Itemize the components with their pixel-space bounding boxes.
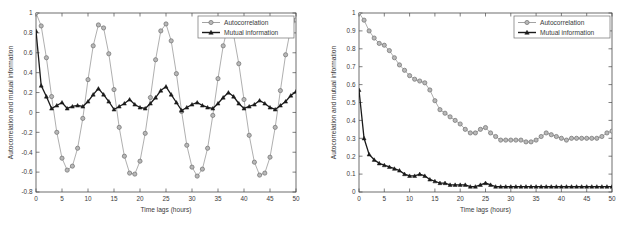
y-tick-label: -0.6 xyxy=(21,168,32,175)
data-point-marker xyxy=(453,118,457,122)
data-point-marker xyxy=(216,77,220,81)
data-point-marker xyxy=(392,56,396,60)
chart-panel-left: 05101520253035404550-0.8-0.6-0.4-0.200.2… xyxy=(0,0,312,226)
x-tick-label: 50 xyxy=(608,195,616,202)
chart-svg-left: 05101520253035404550-0.8-0.6-0.4-0.200.2… xyxy=(0,0,312,226)
legend-label: Mutual information xyxy=(224,29,279,36)
data-point-marker xyxy=(382,43,386,47)
data-point-marker xyxy=(397,63,401,67)
data-point-marker xyxy=(294,18,298,22)
figure-container: 05101520253035404550-0.8-0.6-0.4-0.200.2… xyxy=(0,0,625,226)
x-tick-label: 10 xyxy=(406,195,414,202)
data-point-marker xyxy=(580,136,584,140)
data-point-marker xyxy=(468,131,472,135)
data-point-marker xyxy=(494,134,498,138)
data-point-marker xyxy=(559,136,563,140)
data-point-marker xyxy=(91,44,95,48)
data-point-marker xyxy=(258,173,262,177)
data-point-marker xyxy=(107,52,111,56)
x-axis-title: Time lags (hours) xyxy=(460,206,511,214)
data-point-marker xyxy=(96,23,100,27)
y-tick-label: 0.3 xyxy=(347,135,356,142)
data-point-marker xyxy=(169,39,173,43)
y-tick-label: 0.7 xyxy=(347,63,356,70)
y-tick-label: 0.4 xyxy=(347,117,356,124)
x-tick-label: 0 xyxy=(34,195,38,202)
data-point-marker xyxy=(273,125,277,129)
y-tick-label: 0.9 xyxy=(347,27,356,34)
x-tick-label: 5 xyxy=(60,195,64,202)
x-tick-label: 20 xyxy=(136,195,144,202)
x-tick-label: 30 xyxy=(188,195,196,202)
data-point-marker xyxy=(252,160,256,164)
y-tick-label: 0.8 xyxy=(24,29,33,36)
data-point-marker xyxy=(174,72,178,76)
x-tick-label: 25 xyxy=(162,195,170,202)
data-point-marker xyxy=(539,134,543,138)
data-point-marker xyxy=(237,62,241,66)
x-tick-label: 40 xyxy=(240,195,248,202)
data-point-marker xyxy=(524,140,528,144)
data-point-marker xyxy=(133,172,137,176)
data-point-marker xyxy=(148,95,152,99)
data-point-marker xyxy=(544,131,548,135)
data-point-marker xyxy=(357,11,361,15)
data-point-marker xyxy=(509,138,513,142)
data-point-marker xyxy=(458,122,462,126)
data-point-marker xyxy=(263,171,267,175)
y-tick-label: 0 xyxy=(29,109,33,116)
y-tick-label: 0 xyxy=(352,188,356,195)
data-point-marker xyxy=(529,140,533,144)
data-point-marker xyxy=(268,155,272,159)
data-point-marker xyxy=(190,165,194,169)
x-tick-label: 10 xyxy=(84,195,92,202)
data-point-marker xyxy=(55,130,59,134)
data-point-marker xyxy=(504,138,508,142)
chart-svg-right: 0510152025303540455000.10.20.30.40.50.60… xyxy=(312,0,625,226)
data-point-marker xyxy=(463,127,467,131)
data-point-marker xyxy=(362,18,366,22)
legend-circle-marker-icon xyxy=(209,20,213,24)
data-point-marker xyxy=(367,29,371,33)
data-point-marker xyxy=(154,58,158,62)
y-tick-label: 0.5 xyxy=(347,99,356,106)
data-point-marker xyxy=(499,138,503,142)
data-point-marker xyxy=(402,68,406,72)
y-tick-label: -0.8 xyxy=(21,188,32,195)
data-point-marker xyxy=(600,134,604,138)
x-tick-label: 30 xyxy=(507,195,515,202)
data-point-marker xyxy=(408,74,412,78)
data-point-marker xyxy=(221,44,225,48)
x-tick-label: 20 xyxy=(457,195,465,202)
x-tick-label: 35 xyxy=(214,195,222,202)
y-tick-label: 0.6 xyxy=(24,49,33,56)
data-point-marker xyxy=(278,88,282,92)
x-tick-label: 0 xyxy=(357,195,361,202)
data-point-marker xyxy=(102,26,106,30)
legend-label: Autocorrelation xyxy=(540,19,585,26)
x-axis-title: Time lags (hours) xyxy=(140,206,191,214)
data-point-marker xyxy=(242,97,246,101)
data-point-marker xyxy=(44,56,48,60)
data-point-marker xyxy=(34,11,38,15)
data-point-marker xyxy=(377,41,381,45)
data-point-marker xyxy=(138,159,142,163)
data-point-marker xyxy=(554,134,558,138)
data-point-marker xyxy=(590,136,594,140)
y-tick-label: 0.1 xyxy=(347,170,356,177)
data-point-marker xyxy=(438,108,442,112)
data-point-marker xyxy=(211,113,215,117)
data-point-marker xyxy=(81,116,85,120)
data-point-marker xyxy=(514,138,518,142)
legend: AutocorrelationMutual information xyxy=(514,16,610,38)
data-point-marker xyxy=(65,168,69,172)
legend-label: Mutual information xyxy=(540,29,595,36)
data-point-marker xyxy=(585,136,589,140)
data-point-marker xyxy=(247,133,251,137)
data-point-marker xyxy=(159,29,163,33)
data-point-marker xyxy=(86,78,90,82)
plot-frame xyxy=(359,13,612,192)
data-point-marker xyxy=(284,53,288,57)
data-point-marker xyxy=(549,133,553,137)
y-tick-label: 0.8 xyxy=(347,45,356,52)
